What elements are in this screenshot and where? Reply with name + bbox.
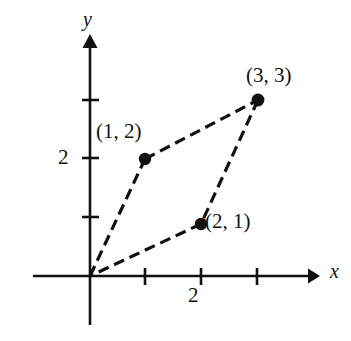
point-label-3-3: (3, 3) xyxy=(246,65,292,86)
y-tick-label-2: 2 xyxy=(58,147,69,168)
x-tick-label-2: 2 xyxy=(188,285,199,306)
point-label-1-2: (1, 2) xyxy=(96,121,142,142)
edge-3-3-to-2-1 xyxy=(201,100,258,224)
parallelogram-vector-figure: (1, 2) (3, 3) (2, 1) 2 2 x y xyxy=(0,0,351,341)
coordinate-plot-canvas xyxy=(0,0,351,341)
data-point-1-2 xyxy=(139,153,151,165)
point-label-2-1: (2, 1) xyxy=(205,211,251,232)
data-point-3-3 xyxy=(252,94,265,107)
y-axis-arrow-icon xyxy=(83,34,98,48)
x-axis-arrow-icon xyxy=(308,269,320,284)
y-axis-label: y xyxy=(83,9,92,29)
x-axis-label: x xyxy=(330,261,339,281)
edge-1-2-to-3-3 xyxy=(145,100,258,159)
